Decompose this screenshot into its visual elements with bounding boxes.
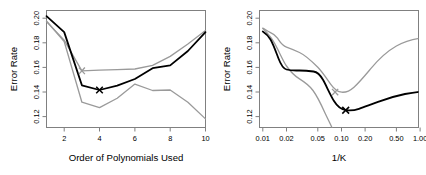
y-ticklabel: 0.16 [245, 60, 254, 74]
x-ticklabel: 6 [133, 134, 137, 143]
y-axis-title-left: Error Rate [8, 47, 19, 91]
y-ticklabel: 0.16 [32, 60, 41, 74]
y-ticklabel: 0.14 [32, 85, 41, 99]
y-axis-ticklabels-right: 0.12 0.14 0.16 0.18 0.20 [245, 11, 254, 124]
x-ticklabel: 0.02 [279, 134, 293, 143]
x-ticklabel: 4 [97, 134, 101, 143]
series-cv-error-right [263, 28, 420, 92]
x-ticklabel: 0.10 [334, 134, 348, 143]
x-ticklabel: 1.00 [413, 134, 426, 143]
x-axis-ticks-right [263, 128, 420, 132]
x-axis-ticklabels-right: 0.01 0.02 0.05 0.10 0.20 0.50 1.00 [256, 134, 426, 143]
series-test-error-right [263, 32, 420, 111]
x-ticklabel: 2 [62, 134, 66, 143]
y-ticklabel: 0.20 [32, 11, 41, 25]
y-axis-ticks-right [256, 18, 260, 116]
y-axis-ticks-left [43, 18, 47, 116]
x-ticklabel: 10 [201, 134, 209, 143]
y-ticklabel: 0.18 [32, 36, 41, 50]
y-ticklabel: 0.12 [245, 109, 254, 123]
x-ticklabel: 0.01 [256, 134, 270, 143]
x-ticklabel: 0.05 [311, 134, 325, 143]
two-panel-error-rate-figure: 0.12 0.14 0.16 0.18 0.20 2 4 6 8 10 [0, 0, 426, 175]
x-axis-title-left: Order of Polynomials Used [69, 152, 184, 163]
x-axis-ticklabels-left: 2 4 6 8 10 [62, 134, 209, 143]
y-axis-title-right: Error Rate [221, 47, 232, 91]
plot-frame-right [260, 11, 419, 128]
chart-panel-one-over-k: 0.12 0.14 0.16 0.18 0.20 0.01 0.02 0. [213, 0, 426, 175]
y-ticklabel: 0.20 [245, 11, 254, 25]
x-ticklabel: 8 [168, 134, 172, 143]
x-axis-title-right: 1/K [332, 152, 347, 163]
y-ticklabel: 0.12 [32, 109, 41, 123]
x-ticklabel: 0.50 [389, 134, 403, 143]
x-axis-ticks-left [64, 128, 205, 132]
y-ticklabel: 0.18 [245, 36, 254, 50]
chart-panel-polynomial-order: 0.12 0.14 0.16 0.18 0.20 2 4 6 8 10 [0, 0, 213, 175]
series-test-error-left [47, 16, 206, 90]
y-ticklabel: 0.14 [245, 85, 254, 99]
y-axis-ticklabels-left: 0.12 0.14 0.16 0.18 0.20 [32, 11, 41, 124]
x-ticklabel: 0.20 [358, 134, 372, 143]
